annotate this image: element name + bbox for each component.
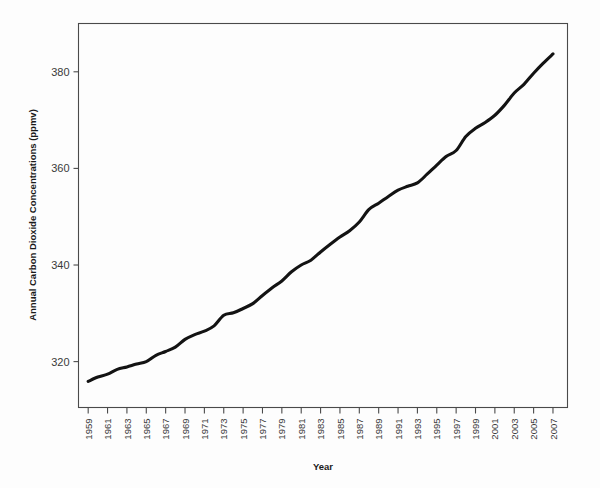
- x-axis-ticks: [88, 408, 553, 414]
- x-axis-tick-label: 1989: [373, 419, 384, 440]
- x-axis-tick-label: 1983: [315, 419, 326, 440]
- x-axis-tick-label: 1979: [276, 419, 287, 440]
- y-axis-tick-label: 360: [51, 162, 69, 174]
- co2-line-chart: 320340360380 195919611963196519671969197…: [0, 0, 600, 488]
- x-axis-tick-label: 1993: [412, 419, 423, 440]
- x-axis-tick-label: 2007: [548, 419, 559, 440]
- x-axis-tick-label: 1981: [296, 419, 307, 440]
- x-axis-title: Year: [313, 461, 333, 472]
- y-axis-tick-label: 380: [51, 66, 69, 78]
- x-axis-tick-label: 2001: [489, 418, 500, 439]
- x-axis-tick-label: 1959: [83, 419, 94, 440]
- chart-figure: 320340360380 195919611963196519671969197…: [0, 0, 600, 488]
- x-axis-tick-label: 1963: [122, 419, 133, 440]
- x-axis-tick-label: 2003: [509, 419, 520, 440]
- y-axis-title: Annual Carbon Dioxide Concentrations (pp…: [27, 109, 38, 321]
- plot-frame: [79, 24, 568, 408]
- x-axis-tick-label: 1969: [180, 419, 191, 440]
- x-axis-tick-label: 1985: [335, 419, 346, 440]
- y-axis-tick-labels: 320340360380: [51, 66, 69, 368]
- x-axis-tick-label: 1967: [160, 419, 171, 440]
- x-axis-tick-label: 1965: [141, 419, 152, 440]
- data-series-line: [88, 54, 553, 381]
- x-axis-tick-label: 1987: [354, 419, 365, 440]
- x-axis-tick-label: 1999: [470, 419, 481, 440]
- y-axis-tick-label: 340: [51, 259, 69, 271]
- x-axis-tick-label: 1995: [431, 419, 442, 440]
- y-axis-tick-label: 320: [51, 356, 69, 368]
- x-axis-tick-label: 1971: [199, 419, 210, 440]
- x-axis-tick-label: 1977: [257, 419, 268, 440]
- y-axis-ticks: [74, 72, 79, 362]
- x-axis-tick-label: 1997: [451, 419, 462, 440]
- x-axis-tick-label: 1991: [393, 419, 404, 440]
- x-axis-tick-labels: 1959196119631965196719691971197319751977…: [83, 418, 559, 439]
- x-axis-tick-label: 2005: [528, 419, 539, 440]
- x-axis-tick-label: 1961: [102, 419, 113, 440]
- x-axis-tick-label: 1973: [218, 419, 229, 440]
- x-axis-tick-label: 1975: [238, 419, 249, 440]
